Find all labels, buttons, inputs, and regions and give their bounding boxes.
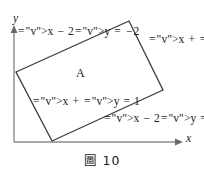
x-axis-arrowhead xyxy=(175,139,183,146)
figure-caption: 圖 10 xyxy=(0,150,204,169)
equation-label-left-edge: ="v">x + ="v">y = 1 xyxy=(32,95,140,107)
region-label-a: A xyxy=(76,66,85,81)
y-axis-label: y xyxy=(13,12,18,24)
equation-label-bottom-edge: ="v">x − 2="v">y = 1 xyxy=(103,112,204,124)
equation-label-right-edge: ="v">x + ="v">y = 4 xyxy=(148,33,204,45)
x-axis-label: x xyxy=(186,132,191,144)
figure-container: y x A ="v">x − 2="v">y = −2 ="v">x + ="v… xyxy=(0,0,204,172)
equation-label-top-left-edge: ="v">x − 2="v">y = −2 xyxy=(17,25,139,37)
